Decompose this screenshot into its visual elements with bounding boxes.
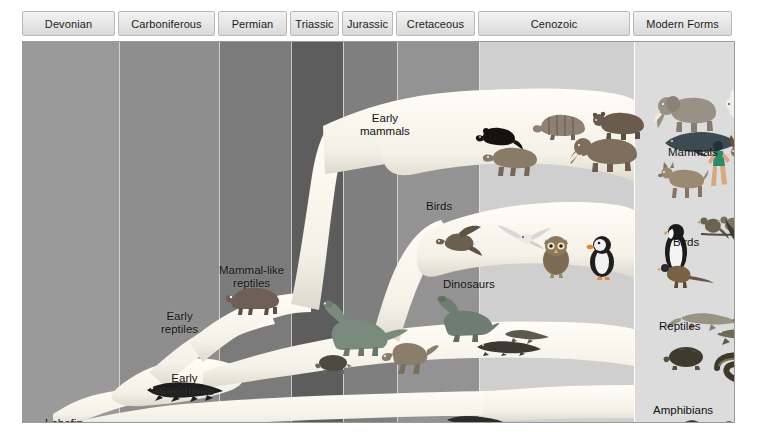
tapir-icon bbox=[481, 142, 543, 176]
period-tab-permian[interactable]: Permian bbox=[218, 11, 287, 36]
frog-icon bbox=[713, 416, 735, 423]
mastodon-icon bbox=[567, 130, 639, 172]
wolf-icon bbox=[657, 158, 709, 198]
aquatic-salamander-icon bbox=[443, 412, 505, 423]
period-tab-cretaceous[interactable]: Cretaceous bbox=[396, 11, 475, 36]
archaeopteryx-icon bbox=[435, 224, 483, 258]
tree-label-lobefin-fishes: Lobefin fishes bbox=[45, 417, 83, 423]
tree-label-early-amphibians: Early amphibians bbox=[155, 372, 214, 398]
owl-icon bbox=[535, 234, 577, 278]
puffin-icon bbox=[583, 234, 621, 280]
pheasant-icon bbox=[657, 258, 715, 288]
lobefin-fish-icon bbox=[63, 422, 125, 423]
modern-group-label-reptiles: Reptiles bbox=[659, 320, 701, 332]
period-tab-bar: DevonianCarboniferousPermianTriassicJura… bbox=[22, 11, 735, 36]
modern-group-label-mammals: Mammals bbox=[668, 146, 718, 158]
tortoise-icon bbox=[661, 344, 709, 370]
period-tab-carboniferous[interactable]: Carboniferous bbox=[118, 11, 215, 36]
tree-label-mammal-like-reptiles: Mammal-like reptiles bbox=[219, 264, 284, 290]
tree-label-early-mammals: Early mammals bbox=[360, 112, 410, 138]
evolution-timeline-figure: DevonianCarboniferousPermianTriassicJura… bbox=[0, 0, 757, 445]
long-neck-dinosaur-icon bbox=[423, 296, 499, 342]
period-tab-devonian[interactable]: Devonian bbox=[22, 11, 115, 36]
eagle-icon bbox=[719, 218, 735, 276]
modern-group-label-amphibians: Amphibians bbox=[653, 404, 713, 416]
period-tab-cenozoic[interactable]: Cenozoic bbox=[478, 11, 630, 36]
timeline-chart-frame: Lobefin fishesEarly amphibiansEarly rept… bbox=[22, 41, 735, 423]
rabbit-icon bbox=[723, 88, 735, 122]
period-tab-triassic[interactable]: Triassic bbox=[290, 11, 339, 36]
tree-label-dinosaurs: Dinosaurs bbox=[443, 278, 495, 291]
period-tab-jurassic[interactable]: Jurassic bbox=[342, 11, 393, 36]
modern-lizard-icon bbox=[713, 324, 735, 350]
period-tab-modern-forms[interactable]: Modern Forms bbox=[633, 11, 732, 36]
lizard-icon bbox=[499, 324, 551, 344]
modern-group-label-birds: Birds bbox=[673, 236, 699, 248]
tree-label-early-reptiles: Early reptiles bbox=[161, 310, 198, 336]
snake-icon bbox=[709, 350, 735, 384]
branch-amphibian-modern bbox=[483, 385, 634, 422]
elephant-icon bbox=[653, 90, 717, 132]
tree-label-birds: Birds bbox=[426, 200, 452, 213]
